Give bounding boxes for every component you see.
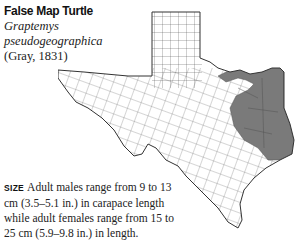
size-description: SIZEAdult males range from 9 to 13 cm (3… bbox=[4, 180, 179, 241]
size-text: Adult males range from 9 to 13 cm (3.5–5… bbox=[4, 181, 174, 239]
size-label: SIZE bbox=[4, 183, 24, 193]
